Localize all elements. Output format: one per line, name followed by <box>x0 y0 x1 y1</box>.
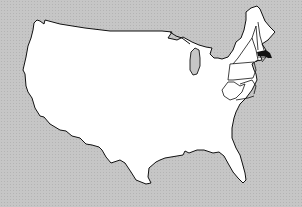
us-map <box>0 0 302 207</box>
us-map-svg <box>0 0 302 207</box>
us-landmass <box>23 6 275 184</box>
lake-michigan <box>190 48 200 75</box>
